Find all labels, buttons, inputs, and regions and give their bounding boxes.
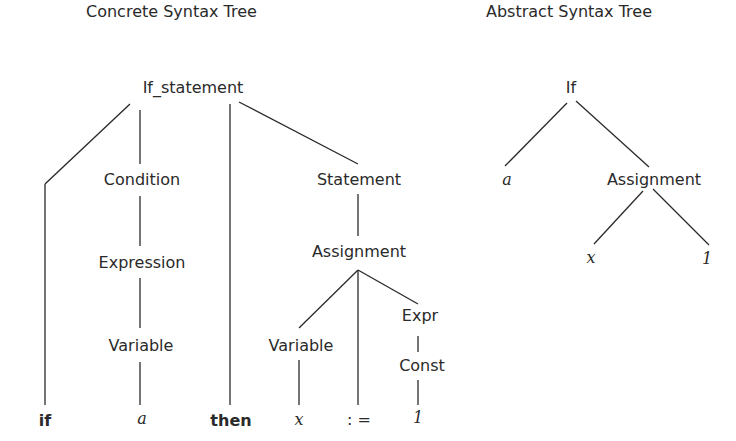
token-one: 1 bbox=[413, 408, 423, 428]
node-if-statement: If_statement bbox=[143, 78, 244, 98]
node-variable-x: Variable bbox=[269, 336, 334, 356]
token-x: x bbox=[294, 410, 303, 430]
concrete-tree-title: Concrete Syntax Tree bbox=[86, 2, 257, 21]
node-statement: Statement bbox=[317, 170, 401, 190]
tree-edges bbox=[0, 0, 736, 441]
node-assignment: Assignment bbox=[312, 242, 406, 262]
node-const: Const bbox=[399, 356, 445, 376]
node-variable-a: Variable bbox=[109, 336, 174, 356]
node-condition: Condition bbox=[104, 170, 180, 190]
token-assign-op: : = bbox=[347, 410, 371, 430]
token-if: if bbox=[39, 411, 51, 431]
node-expression: Expression bbox=[99, 253, 186, 273]
ast-node-one: 1 bbox=[702, 249, 712, 269]
ast-node-a: a bbox=[502, 170, 512, 190]
token-then: then bbox=[210, 411, 251, 431]
ast-node-if: If bbox=[566, 78, 576, 98]
ast-node-x: x bbox=[586, 248, 595, 268]
ast-node-assignment: Assignment bbox=[607, 170, 701, 190]
abstract-tree-title: Abstract Syntax Tree bbox=[486, 2, 652, 21]
token-a: a bbox=[137, 409, 147, 429]
node-expr: Expr bbox=[402, 306, 438, 326]
